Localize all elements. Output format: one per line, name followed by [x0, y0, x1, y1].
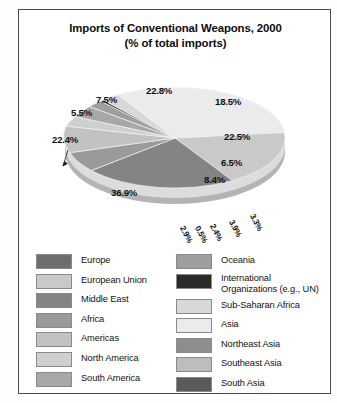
pie-label-northeast-asia: 22.4% [52, 134, 78, 145]
chart-figure: Stockholm International Peace Research I… [0, 0, 337, 403]
chart-panel: Imports of Conventional Weapons, 2000 (%… [18, 9, 331, 394]
legend-item-northeast-asia[interactable]: Northeast Asia [176, 337, 331, 357]
pie-label-middle-east: 22.5% [224, 131, 250, 142]
legend-label-middle-east: Middle East [81, 292, 128, 305]
legend-label-africa: Africa [81, 312, 104, 325]
legend-swatch-asia [176, 318, 212, 333]
legend-swatch-oceania [176, 254, 212, 269]
legend-swatch-northeast-asia [176, 338, 212, 353]
legend-item-africa[interactable]: Africa [36, 312, 176, 332]
legend-item-southeast-asia[interactable]: Southeast Asia [176, 356, 331, 376]
legend-column-right: Oceania International Organizations (e.g… [176, 253, 331, 394]
pie-label-southeast-asia: 5.5% [71, 107, 92, 118]
pie-label-europe: 22.8% [146, 85, 172, 96]
legend-swatch-americas [36, 332, 72, 347]
legend-item-european-union[interactable]: European Union [36, 273, 176, 293]
legend-item-sub-saharan-africa[interactable]: Sub-Saharan Africa [176, 298, 331, 318]
pie-label-european-union: 18.5% [215, 96, 241, 107]
pie-label-americas: 8.4% [204, 174, 225, 185]
legend-swatch-european-union [36, 274, 72, 289]
chart-subtitle: (% of total imports) [19, 36, 331, 51]
legend-label-asia: Asia [221, 317, 239, 330]
legend-label-international-organizations: International Organizations (e.g., UN) [221, 273, 319, 296]
legend-swatch-south-america [36, 372, 72, 387]
legend-item-international-organizations[interactable]: International Organizations (e.g., UN) [176, 273, 331, 298]
legend-swatch-north-america [36, 352, 72, 367]
legend-item-south-america[interactable]: South America [36, 371, 176, 391]
legend-item-oceania[interactable]: Oceania [176, 253, 331, 273]
legend-label-sub-saharan-africa: Sub-Saharan Africa [221, 298, 300, 311]
pie-label-south-asia: 7.5% [96, 94, 117, 105]
chart-title-block: Imports of Conventional Weapons, 2000 (%… [19, 21, 331, 51]
legend-label-line-2: Organizations (e.g., UN) [221, 284, 319, 294]
legend-swatch-middle-east [36, 293, 72, 308]
legend-label-north-america: North America [81, 351, 139, 364]
legend-label-northeast-asia: Northeast Asia [221, 337, 280, 350]
chart-legend: Europe European Union Middle East Africa… [19, 253, 331, 393]
legend-label-oceania: Oceania [221, 253, 255, 266]
legend-item-north-america[interactable]: North America [36, 351, 176, 371]
pie-chart: 22.8% 18.5% 22.5% 6.5% 8.4% 7.5% 5.5% 22… [19, 54, 331, 254]
legend-label-americas: Americas [81, 331, 119, 344]
legend-label-south-america: South America [81, 371, 140, 384]
legend-swatch-southeast-asia [176, 357, 212, 372]
legend-item-europe[interactable]: Europe [36, 253, 176, 273]
legend-item-americas[interactable]: Americas [36, 331, 176, 351]
legend-swatch-sub-saharan-africa [176, 299, 212, 314]
legend-swatch-south-asia [176, 377, 212, 392]
pie-svg [19, 54, 331, 254]
chart-title: Imports of Conventional Weapons, 2000 [19, 21, 331, 36]
legend-column-left: Europe European Union Middle East Africa… [36, 253, 176, 390]
legend-item-middle-east[interactable]: Middle East [36, 292, 176, 312]
pie-label-africa: 6.5% [221, 157, 242, 168]
legend-swatch-international-organizations [176, 274, 212, 289]
legend-swatch-africa [36, 313, 72, 328]
legend-label-european-union: European Union [81, 273, 147, 286]
legend-label-southeast-asia: Southeast Asia [221, 356, 282, 369]
legend-swatch-europe [36, 254, 72, 269]
legend-item-asia[interactable]: Asia [176, 317, 331, 337]
legend-label-line-1: International [221, 273, 271, 283]
legend-item-south-asia[interactable]: South Asia [176, 376, 331, 394]
legend-label-south-asia: South Asia [221, 376, 264, 389]
pie-label-asia: 36.9% [111, 187, 137, 198]
legend-label-europe: Europe [81, 253, 110, 266]
